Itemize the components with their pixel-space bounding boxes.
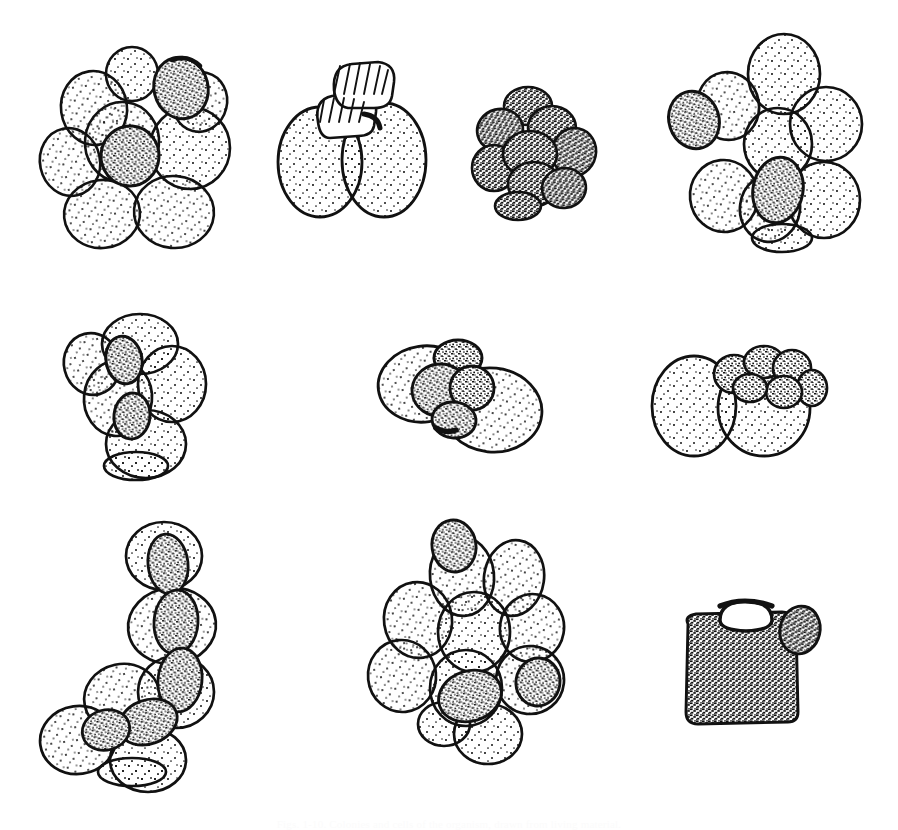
specimen-6-drawing xyxy=(374,332,550,460)
specimen-5: Fig. 5 xyxy=(62,312,220,480)
specimen-7-drawing xyxy=(646,344,828,460)
specimen-7: Fig. 7 xyxy=(646,344,828,460)
specimen-10-drawing xyxy=(672,588,824,740)
specimen-2-drawing xyxy=(272,52,430,222)
specimen-10: Fig. 10 xyxy=(672,588,824,740)
specimen-4: Fig. 4 xyxy=(666,32,866,247)
top-row: Fig. 1 xyxy=(0,0,898,290)
specimen-6: Fig. 6 xyxy=(374,332,550,460)
specimen-9-drawing xyxy=(366,516,580,764)
specimen-2: Fig. 2 xyxy=(272,52,430,222)
specimen-1-drawing xyxy=(22,30,262,252)
specimen-9: Fig. 9 xyxy=(366,516,580,764)
specimen-4-drawing xyxy=(666,32,866,247)
specimen-8: Fig. 8 xyxy=(36,516,228,788)
plate-caption: Figs. 1-10. Colonies and cells of the or… xyxy=(0,818,898,830)
specimen-3-drawing xyxy=(470,84,602,218)
specimen-3: Fig. 3 xyxy=(470,84,602,218)
specimen-1: Fig. 1 xyxy=(22,30,262,252)
specimen-5-drawing xyxy=(62,312,220,480)
specimen-8-drawing xyxy=(36,516,228,788)
